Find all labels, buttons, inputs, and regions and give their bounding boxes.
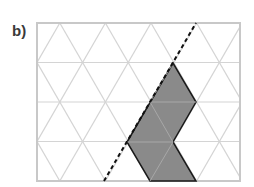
grid-lines bbox=[0, 23, 254, 181]
triangular-grid-diagram bbox=[0, 0, 254, 187]
